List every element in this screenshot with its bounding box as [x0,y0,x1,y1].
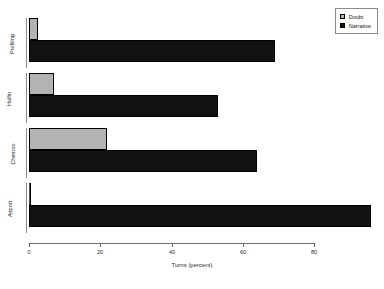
bar-group-airport [29,183,384,223]
x-axis-tick-60 [243,243,244,247]
bar-group-chernoo [29,128,384,168]
x-axis-tick-label-80: 80 [311,249,317,255]
bar-chart: Profiling Halfin Chernoo Airport [0,0,384,289]
y-axis-tick-chernoo [26,128,27,178]
legend: Doubt Narrative [335,8,378,34]
x-axis-tick-label-40: 40 [169,249,175,255]
bar-profiling-doubt [29,18,38,40]
y-axis-label-profiling-text: Profiling [0,34,32,54]
legend-swatch-doubt-icon [340,14,345,19]
legend-item-doubt: Doubt [340,12,371,21]
x-axis-title: Turns (percent) [0,262,384,268]
bar-halfin-doubt [29,73,54,95]
bar-chernoo-doubt [29,128,107,150]
x-axis-tick-20 [100,243,101,247]
y-axis-tick-profiling [26,18,27,68]
bar-group-halfin [29,73,384,113]
bar-halfin-narrative [29,95,218,117]
x-axis-tick-label-20: 20 [97,249,103,255]
y-axis-label-halfin: Halfin [2,79,16,119]
x-axis-tick-80 [314,243,315,247]
x-axis-tick-label-0: 0 [27,249,30,255]
legend-item-narrative: Narrative [340,21,371,30]
y-axis-label-profiling: Profiling [2,24,16,64]
bar-profiling-narrative [29,40,275,62]
bar-group-profiling [29,18,384,58]
y-axis-tick-airport [26,183,27,233]
y-axis-label-airport: Airport [2,189,16,229]
y-axis-tick-halfin [26,73,27,123]
legend-swatch-narrative-icon [340,23,345,28]
y-axis-label-halfin-text: Halfin [0,92,29,106]
y-axis-label-chernoo: Chernoo [2,134,16,174]
x-axis-tick-40 [172,243,173,247]
x-axis-tick-0 [29,243,30,247]
legend-label-narrative: Narrative [349,23,371,29]
y-axis-label-chernoo-text: Chernoo [0,143,33,164]
bar-airport-narrative [29,205,371,227]
bar-airport-doubt [29,183,31,205]
x-axis-tick-label-60: 60 [240,249,246,255]
legend-label-doubt: Doubt [349,14,364,20]
bar-chernoo-narrative [29,150,257,172]
plot-area [29,12,384,240]
